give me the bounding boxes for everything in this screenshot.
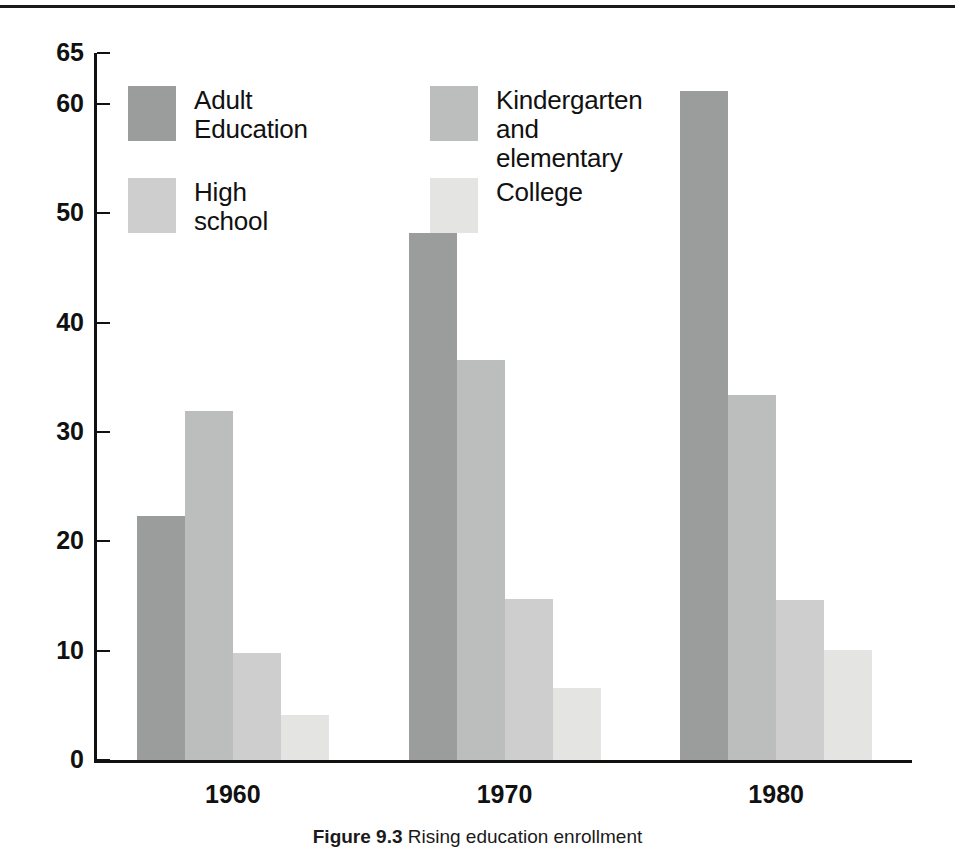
bar-1970-adult-education [409,233,457,760]
legend-item-kindergarten: Kindergarten and elementary [430,86,642,173]
bar-1970-college [553,688,601,760]
bar-1960-college [281,715,329,760]
bar-1980-high-school [776,600,824,760]
legend-label: Kindergarten and elementary [496,86,642,173]
legend-swatch-icon [128,178,176,233]
bar-1980-college [824,650,872,760]
legend-label: College [496,178,583,207]
legend-swatch-icon [430,86,478,141]
figure-page: 010203040506065 196019701980 Adult Educa… [0,0,955,849]
x-axis-label-1980: 1980 [680,782,872,807]
bar-chart: 010203040506065 196019701980 Adult Educa… [0,0,955,849]
bar-1970-high-school [505,599,553,760]
legend-swatch-icon [128,86,176,141]
legend-label: High school [194,178,268,236]
legend-label: Adult Education [194,86,308,144]
bar-1980-adult-education [680,91,728,760]
bar-1960-adult-education [137,516,185,760]
legend-item-high: High school [128,178,268,236]
x-axis-label-1960: 1960 [137,782,329,807]
bar-1970-kindergarten-and-elementary [457,360,505,760]
bar-1980-kindergarten-and-elementary [728,395,776,760]
figure-caption-text: Rising education enrollment [408,826,642,847]
figure-caption-label: Figure 9.3 [313,826,403,847]
legend-item-college: College [430,178,583,233]
bar-1960-high-school [233,653,281,760]
legend-item-adult: Adult Education [128,86,308,144]
x-axis-line [94,760,912,763]
figure-caption: Figure 9.3 Rising education enrollment [0,826,955,849]
legend-swatch-icon [430,178,478,233]
x-axis-label-1970: 1970 [409,782,601,807]
bar-1960-kindergarten-and-elementary [185,411,233,760]
